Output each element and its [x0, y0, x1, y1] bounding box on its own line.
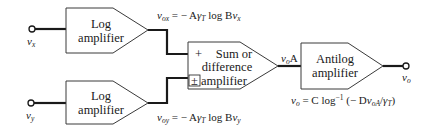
log-amplifier-top-label-1: Log: [91, 17, 112, 31]
wire-voy-to-sum: [148, 78, 188, 103]
voA-label: voA: [281, 52, 298, 66]
input-x-terminal-icon: [29, 26, 35, 32]
antilog-amplifier: Antilog amplifier: [301, 43, 383, 89]
vox-equation: vox = − AγT log Bvx: [157, 9, 241, 23]
sum-difference-amplifier: + Sum or difference ± amplifier: [188, 42, 278, 89]
output-label: vo: [402, 71, 411, 85]
sum-amplifier-label-2: difference: [202, 60, 253, 74]
plus-minus-sign: ±: [191, 74, 198, 88]
antilog-amplifier-label-1: Antilog: [316, 52, 355, 66]
input-y-label: vy: [26, 109, 35, 123]
wire-vox-to-sum: [148, 30, 188, 54]
sum-amplifier-label-1: Sum or: [216, 47, 253, 61]
sum-amplifier-label-3: amplifier: [201, 74, 248, 88]
input-x-label: vx: [27, 35, 36, 49]
log-amplifier-bottom: Log amplifier: [66, 81, 148, 124]
log-amplifier-top-label-2: amplifier: [78, 31, 125, 45]
output-terminal-icon: [403, 63, 409, 69]
plus-sign: +: [195, 47, 202, 61]
log-amplifier-bottom-label-2: amplifier: [78, 103, 125, 117]
input-y-terminal-icon: [28, 100, 34, 106]
log-amplifier-top: Log amplifier: [66, 8, 148, 53]
antilog-amplifier-label-2: amplifier: [312, 66, 359, 80]
log-amplifier-bottom-label-1: Log: [91, 89, 112, 103]
log-antilog-multiplier-diagram: Log amplifier Log amplifier + Sum or dif…: [0, 0, 436, 135]
vo-equation: vo = C log−1 (− DvoA/γT): [291, 93, 396, 108]
voy-equation: voy = − AγT log Bvy: [157, 111, 241, 125]
